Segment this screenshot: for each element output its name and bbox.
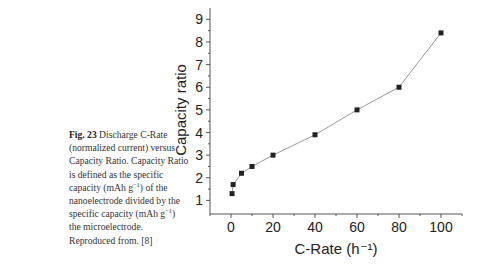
x-tick-label: 20 — [265, 219, 281, 235]
data-point-marker — [271, 153, 276, 158]
y-tick-label: 9 — [195, 11, 203, 27]
data-point-marker — [439, 30, 444, 35]
x-tick-label: 80 — [391, 219, 407, 235]
x-tick-label: 0 — [227, 219, 235, 235]
y-tick-label: 7 — [195, 57, 203, 73]
y-tick-label: 5 — [195, 102, 203, 118]
data-series — [230, 30, 444, 196]
x-axis-label: C-Rate (h⁻¹) — [294, 240, 377, 257]
y-axis-label: Capacity ratio — [172, 64, 189, 156]
data-point-marker — [231, 182, 236, 187]
x-tick-label: 60 — [349, 219, 365, 235]
y-tick-label: 3 — [195, 147, 203, 163]
y-tick-label: 1 — [195, 192, 203, 208]
y-tick-label: 2 — [195, 170, 203, 186]
data-point-marker — [397, 85, 402, 90]
series-line — [232, 33, 441, 194]
x-tick-label: 40 — [307, 219, 323, 235]
y-tick-label: 4 — [195, 125, 203, 141]
data-point-marker — [239, 171, 244, 176]
y-tick-label: 6 — [195, 79, 203, 95]
capacity-ratio-chart: 123456789020406080100 C-Rate (h⁻¹) Capac… — [0, 0, 483, 277]
x-tick-label: 100 — [429, 219, 453, 235]
data-point-marker — [355, 107, 360, 112]
y-tick-label: 8 — [195, 34, 203, 50]
data-point-marker — [230, 191, 235, 196]
chart-axes: 123456789020406080100 — [195, 8, 462, 235]
data-point-marker — [313, 132, 318, 137]
data-point-marker — [250, 164, 255, 169]
